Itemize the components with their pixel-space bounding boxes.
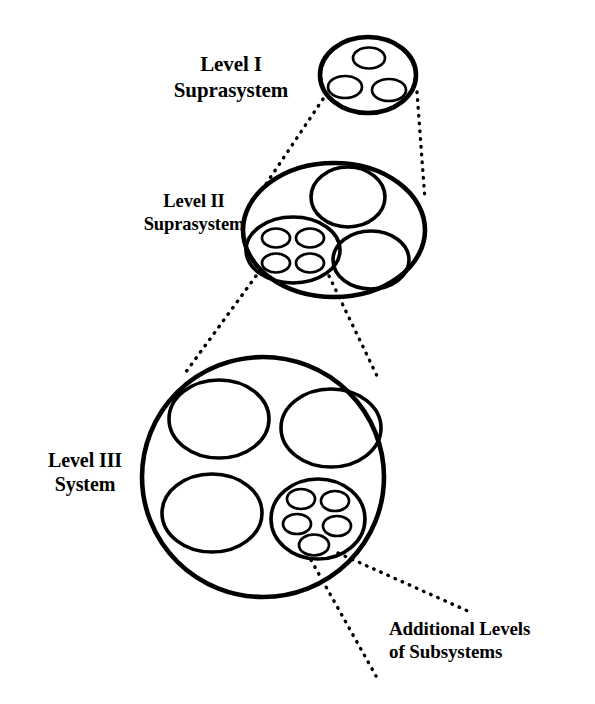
connector-group-level2-level3 (183, 276, 378, 378)
label-level-3-line2: System (30, 472, 140, 496)
label-level-2-line2: Suprasystem (126, 213, 262, 236)
level-1-subsystem-1 (353, 48, 385, 69)
label-additional-line1: Additional Levels (389, 617, 579, 640)
level-3-nested-subsystem-1 (287, 489, 315, 509)
connector-additional-upper (338, 553, 470, 612)
level-3-boundary (142, 357, 384, 597)
label-level-1-line1: Level I (160, 52, 302, 78)
label-level-3: Level III System (30, 448, 140, 497)
label-level-1: Level I Suprasystem (160, 52, 302, 103)
label-additional-line2: of Subsystems (389, 640, 579, 663)
label-level-3-line1: Level III (30, 448, 140, 472)
level-2-nested-subsystem-3 (262, 254, 290, 273)
level-1-system (320, 37, 416, 113)
level-3-system (142, 357, 384, 597)
level-3-nested-subsystem-4 (323, 516, 351, 536)
level-3-subsystem-top-right (281, 389, 381, 467)
level-1-subsystem-3 (372, 79, 406, 101)
level-3-subsystem-top-left (169, 380, 269, 458)
level-3-subsystem-bottom-left (162, 474, 262, 552)
connector-additional-lower (311, 560, 376, 676)
level-2-nested-subsystem-4 (296, 254, 324, 273)
level-2-system (243, 163, 425, 297)
label-level-2: Level II Suprasystem (126, 190, 262, 235)
level-2-nested-subsystem-1 (262, 229, 290, 248)
connector-level1-right (417, 92, 425, 200)
level-3-nested-cluster (271, 479, 365, 559)
level-3-nested-subsystem-3 (283, 514, 311, 534)
level-2-subsystem-bottom-right (333, 231, 409, 289)
diagram-canvas (0, 0, 595, 704)
level-2-subsystem-top (311, 167, 385, 227)
label-additional-levels: Additional Levels of Subsystems (389, 617, 579, 663)
systems-hierarchy-diagram: Level I Suprasystem Level II Suprasystem… (0, 0, 595, 704)
connector-level2-left (183, 276, 256, 376)
label-level-2-line1: Level II (126, 190, 262, 213)
level-3-nested-subsystem-2 (321, 491, 349, 511)
level-2-nested-subsystem-2 (296, 229, 324, 248)
label-level-1-line2: Suprasystem (160, 78, 302, 104)
level-3-nested-subsystem-5 (299, 535, 329, 556)
level-1-subsystem-2 (328, 76, 362, 98)
